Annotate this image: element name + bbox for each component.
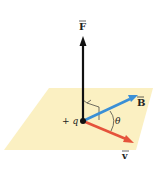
charge-dot — [80, 118, 86, 124]
angle-label: θ — [115, 116, 121, 126]
field-label: B — [137, 97, 145, 108]
force-arrowhead — [80, 36, 87, 46]
force-label: F — [79, 21, 86, 32]
velocity-label: v — [121, 150, 128, 161]
charge-label: + q — [62, 116, 78, 126]
magnetic-force-diagram: F B v + q θ — [0, 0, 159, 170]
